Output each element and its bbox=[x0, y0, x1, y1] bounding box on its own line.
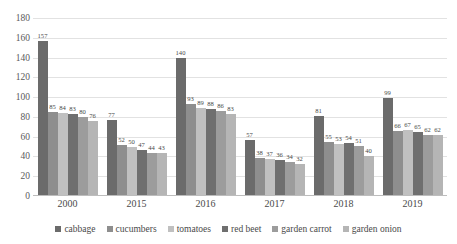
bar[interactable] bbox=[255, 158, 265, 196]
x-tick-label: 2000 bbox=[33, 198, 102, 216]
bar[interactable] bbox=[413, 132, 423, 196]
bar[interactable] bbox=[137, 150, 147, 196]
bar-set: 573837363432 bbox=[245, 18, 305, 196]
bar-column[interactable]: 140 bbox=[176, 18, 186, 196]
bar-value-label: 38 bbox=[256, 149, 263, 157]
y-tick-label: 120 bbox=[16, 72, 30, 82]
bar-column[interactable]: 54 bbox=[344, 18, 354, 196]
bar[interactable] bbox=[196, 108, 206, 196]
bar[interactable] bbox=[285, 162, 295, 196]
bar[interactable] bbox=[393, 131, 403, 196]
legend-item[interactable]: cabbage bbox=[55, 224, 95, 234]
bar-value-label: 83 bbox=[227, 105, 234, 113]
bar-column[interactable]: 53 bbox=[334, 18, 344, 196]
bar-column[interactable]: 77 bbox=[107, 18, 117, 196]
x-tick-label: 2016 bbox=[171, 198, 240, 216]
bar-column[interactable]: 67 bbox=[403, 18, 413, 196]
bar-value-label: 54 bbox=[345, 134, 352, 142]
bar-column[interactable]: 38 bbox=[255, 18, 265, 196]
bar-column[interactable]: 51 bbox=[354, 18, 364, 196]
bar[interactable] bbox=[324, 142, 334, 196]
bar-column[interactable]: 55 bbox=[324, 18, 334, 196]
x-axis-line bbox=[33, 195, 447, 196]
legend-item[interactable]: garden carrot bbox=[272, 224, 331, 234]
bar[interactable] bbox=[88, 121, 98, 196]
bar-column[interactable]: 157 bbox=[38, 18, 48, 196]
bar-column[interactable]: 99 bbox=[383, 18, 393, 196]
bar[interactable] bbox=[314, 116, 324, 196]
bar[interactable] bbox=[295, 164, 305, 196]
bar-column[interactable]: 88 bbox=[206, 18, 216, 196]
bar[interactable] bbox=[344, 143, 354, 196]
bar-column[interactable]: 83 bbox=[226, 18, 236, 196]
bar[interactable] bbox=[226, 114, 236, 196]
bar[interactable] bbox=[354, 146, 364, 196]
bar[interactable] bbox=[78, 117, 88, 196]
y-tick-label: 0 bbox=[25, 191, 30, 201]
bar[interactable] bbox=[107, 120, 117, 196]
bar[interactable] bbox=[245, 140, 255, 196]
bar-column[interactable]: 52 bbox=[117, 18, 127, 196]
bar-column[interactable]: 40 bbox=[364, 18, 374, 196]
bar-value-label: 36 bbox=[276, 151, 283, 159]
bar[interactable] bbox=[383, 98, 393, 196]
legend-item[interactable]: garden onion bbox=[343, 224, 402, 234]
bar[interactable] bbox=[147, 153, 157, 197]
bar[interactable] bbox=[68, 114, 78, 196]
bar-column[interactable]: 86 bbox=[216, 18, 226, 196]
bar[interactable] bbox=[216, 111, 226, 196]
bar-column[interactable]: 62 bbox=[433, 18, 443, 196]
bar[interactable] bbox=[334, 144, 344, 196]
bar-value-label: 57 bbox=[246, 131, 253, 139]
bar-column[interactable]: 66 bbox=[393, 18, 403, 196]
bar-column[interactable]: 83 bbox=[68, 18, 78, 196]
bar-column[interactable]: 84 bbox=[58, 18, 68, 196]
legend-item[interactable]: tomatoes bbox=[168, 224, 211, 234]
bar[interactable] bbox=[127, 147, 137, 196]
bar[interactable] bbox=[58, 113, 68, 196]
bar-column[interactable]: 47 bbox=[137, 18, 147, 196]
bar[interactable] bbox=[206, 109, 216, 196]
bar-column[interactable]: 85 bbox=[48, 18, 58, 196]
bar-value-label: 80 bbox=[79, 108, 86, 116]
bar-column[interactable]: 50 bbox=[127, 18, 137, 196]
bar[interactable] bbox=[265, 159, 275, 196]
bar-column[interactable]: 62 bbox=[423, 18, 433, 196]
bar[interactable] bbox=[117, 145, 127, 196]
bar-column[interactable]: 32 bbox=[295, 18, 305, 196]
x-tick-label: 2015 bbox=[102, 198, 171, 216]
bar-column[interactable]: 57 bbox=[245, 18, 255, 196]
bar[interactable] bbox=[403, 130, 413, 196]
bar[interactable] bbox=[275, 160, 285, 196]
bar-set: 775250474443 bbox=[107, 18, 167, 196]
bar[interactable] bbox=[364, 156, 374, 196]
legend-swatch-icon bbox=[107, 226, 113, 232]
bar[interactable] bbox=[423, 135, 433, 196]
bar-column[interactable]: 34 bbox=[285, 18, 295, 196]
bar-column[interactable]: 37 bbox=[265, 18, 275, 196]
legend-label: tomatoes bbox=[177, 224, 211, 234]
legend-item[interactable]: cucumbers bbox=[107, 224, 157, 234]
legend-label: garden onion bbox=[352, 224, 402, 234]
bar-column[interactable]: 81 bbox=[314, 18, 324, 196]
bar-column[interactable]: 89 bbox=[196, 18, 206, 196]
bar[interactable] bbox=[38, 41, 48, 196]
bar-column[interactable]: 44 bbox=[147, 18, 157, 196]
bar[interactable] bbox=[186, 104, 196, 196]
bar-value-label: 47 bbox=[138, 141, 145, 149]
y-tick-label: 60 bbox=[21, 132, 31, 142]
legend-swatch-icon bbox=[222, 226, 228, 232]
bar-column[interactable]: 76 bbox=[88, 18, 98, 196]
bar-column[interactable]: 80 bbox=[78, 18, 88, 196]
bar-column[interactable]: 43 bbox=[157, 18, 167, 196]
bar[interactable] bbox=[157, 153, 167, 196]
bar-column[interactable]: 65 bbox=[413, 18, 423, 196]
bar-column[interactable]: 36 bbox=[275, 18, 285, 196]
bar-value-label: 66 bbox=[394, 122, 401, 130]
bar-column[interactable]: 93 bbox=[186, 18, 196, 196]
bar[interactable] bbox=[176, 58, 186, 196]
bar[interactable] bbox=[48, 112, 58, 196]
bar[interactable] bbox=[433, 135, 443, 196]
bar-group: 1409389888683 bbox=[171, 18, 240, 196]
legend-item[interactable]: red beet bbox=[222, 224, 261, 234]
